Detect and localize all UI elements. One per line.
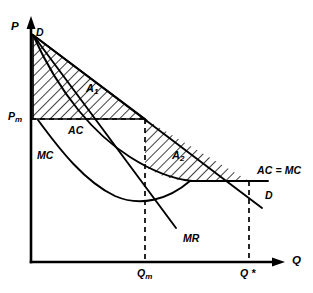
- x-axis-arrowhead: [272, 258, 285, 267]
- quantity-monopoly-tick-label: Qm: [137, 268, 153, 281]
- area-a1-symbol: A: [86, 82, 94, 94]
- average-cost-label: AC: [68, 125, 83, 136]
- diagram-canvas: [0, 0, 313, 293]
- marginal-revenue-label: MR: [183, 233, 200, 244]
- demand-label-bottom: D: [265, 190, 273, 201]
- area-a2-label: A2: [172, 150, 185, 163]
- demand-curve: [33, 35, 262, 208]
- x-axis-label: Q: [292, 255, 301, 267]
- quantity-monopoly-subscript: m: [145, 272, 152, 281]
- price-monopoly-tick-label: Pm: [8, 111, 22, 124]
- marginal-cost-label: MC: [37, 150, 54, 161]
- y-axis-arrowhead: [27, 16, 36, 29]
- price-monopoly-subscript: m: [15, 115, 22, 124]
- quantity-efficient-tick-label: Q *: [240, 268, 255, 279]
- area-a2-hatching: [145, 119, 249, 181]
- area-a1-subscript: 1: [94, 87, 99, 96]
- area-a1-label: A1: [86, 83, 99, 96]
- area-a2-subscript: 2: [180, 154, 185, 163]
- area-a2-symbol: A: [172, 149, 180, 161]
- x-axis: [31, 258, 285, 267]
- y-axis-label: P: [11, 21, 19, 33]
- demand-label-top: D: [36, 27, 44, 38]
- economics-diagram: P Q D D AC MC MR AC = MC Pm Qm Q * A1 A2: [0, 0, 313, 293]
- ac-equals-mc-label: AC = MC: [257, 165, 301, 176]
